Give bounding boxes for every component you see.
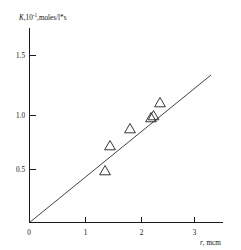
y-axis-title-units: moles/l*s xyxy=(39,14,67,22)
x-axis-title-units: , mcm xyxy=(203,239,221,247)
chart-figure: 0.5 1.0 1.5 0 1 2 3 K,10-1,moles/l*s r, … xyxy=(0,0,241,250)
y-tick-label-1.5: 1.5 xyxy=(16,52,25,60)
x-axis-title: r, mcm xyxy=(200,239,221,247)
y-tick-label-1.0: 1.0 xyxy=(16,112,25,120)
data-point-marker xyxy=(125,124,136,133)
axes-group xyxy=(29,28,223,223)
x-tick-label-1: 1 xyxy=(84,229,88,237)
data-markers-group xyxy=(100,98,166,175)
y-tick-label-0.5: 0.5 xyxy=(16,166,25,174)
x-tick-label-0: 0 xyxy=(27,229,31,237)
y-axis-title: K,10-1,moles/l*s xyxy=(18,12,67,22)
scatter-plot-canvas: 0.5 1.0 1.5 0 1 2 3 K,10-1,moles/l*s r, … xyxy=(0,0,241,250)
data-point-marker xyxy=(105,141,116,150)
x-tick-label-3: 3 xyxy=(193,229,197,237)
data-point-marker xyxy=(100,166,111,175)
x-tick-marks xyxy=(86,217,195,223)
y-tick-marks xyxy=(30,56,36,170)
x-tick-label-2: 2 xyxy=(140,229,144,237)
data-point-marker xyxy=(155,98,166,107)
linear-fit-line xyxy=(30,75,212,223)
